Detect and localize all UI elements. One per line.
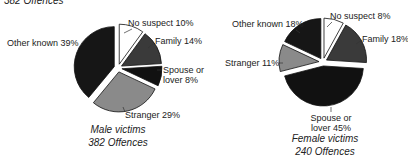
female-chart-subtitle: 240 Offences <box>294 146 354 157</box>
data-label-no-suspect: No suspect 10% <box>128 18 194 28</box>
male-victims-pie: No suspect 10%Family 14%Spouse orlover 8… <box>7 18 204 120</box>
male-chart-title: Male victims <box>90 124 145 135</box>
female-victims-pie: No suspect 8%Family 18%Spouse orlover 45… <box>225 11 408 133</box>
data-label-spouse-or-lover: lover 45% <box>311 123 351 133</box>
data-label-stranger: Stranger 11% <box>225 58 279 68</box>
data-label-stranger: Stranger 29% <box>125 110 180 120</box>
slice-spouse-or-lover <box>285 66 364 106</box>
pie-charts: 382 Offences No suspect 10%Family 14%Spo… <box>0 0 408 158</box>
female-chart-title: Female victims <box>292 133 359 144</box>
top-caption-partial: 382 Offences <box>4 0 63 6</box>
male-chart-subtitle: 382 Offences <box>88 137 147 148</box>
data-label-other-known: Other known 39% <box>7 38 79 48</box>
data-label-family: Family 14% <box>155 36 202 46</box>
data-label-no-suspect: No suspect 8% <box>330 11 391 21</box>
data-label-family: Family 18% <box>362 34 408 44</box>
data-label-spouse-or-lover: Spouse or <box>310 113 351 123</box>
data-label-spouse-or-lover: lover 8% <box>163 75 198 85</box>
data-label-spouse-or-lover: Spouse or <box>163 65 204 75</box>
data-label-other-known: Other known 18% <box>232 19 304 29</box>
